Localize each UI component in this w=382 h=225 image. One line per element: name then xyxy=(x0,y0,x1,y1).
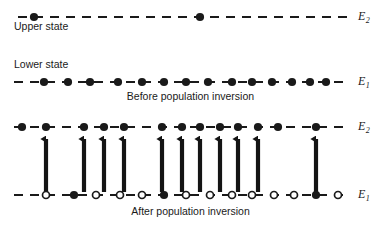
atom-filled-e2-before-2 xyxy=(196,13,204,21)
population-markers-layer xyxy=(18,13,342,199)
atom-open-e1-after-7 xyxy=(183,192,190,199)
atom-filled-e2-after-13 xyxy=(312,123,320,131)
atom-open-e1-after-3 xyxy=(93,192,100,199)
atom-filled-e1-after-2 xyxy=(70,191,78,199)
atom-filled-e1-before-11 xyxy=(268,78,276,86)
atom-filled-e2-after-3 xyxy=(80,123,88,131)
atom-filled-e1-after-13 xyxy=(312,191,320,199)
caption-before-inversion: Before population inversion xyxy=(108,91,273,102)
atom-filled-e1-before-8 xyxy=(204,78,212,86)
atom-filled-e2-after-11 xyxy=(254,123,262,131)
e1-before-subscript: 1 xyxy=(366,81,370,90)
atom-filled-e1-before-9 xyxy=(228,78,236,86)
e1-before-letter: E xyxy=(358,74,365,88)
atom-filled-e1-before-12 xyxy=(288,78,296,86)
e2-before-subscript: 2 xyxy=(366,16,370,25)
atom-filled-e2-after-2 xyxy=(42,123,50,131)
atom-filled-e1-before-10 xyxy=(248,78,256,86)
e2-after-subscript: 2 xyxy=(366,126,370,135)
atom-filled-e2-after-5 xyxy=(120,123,128,131)
atom-filled-e2-after-1 xyxy=(18,123,26,131)
atom-filled-e1-before-5 xyxy=(138,78,146,86)
pump-arrows-layer xyxy=(46,139,316,192)
lower-state-label: Lower state xyxy=(14,59,68,70)
atom-filled-e1-before-3 xyxy=(86,78,94,86)
energy-label-e1-before: E1 xyxy=(358,75,369,87)
atom-open-e1-after-14 xyxy=(335,192,342,199)
e1-after-letter: E xyxy=(358,187,365,201)
caption-after-inversion: After population inversion xyxy=(108,206,273,217)
atom-filled-e1-before-1 xyxy=(40,78,48,86)
atom-open-e1-after-4 xyxy=(117,192,124,199)
atom-filled-e1-before-4 xyxy=(114,78,122,86)
atom-filled-e2-after-7 xyxy=(178,123,186,131)
e2-after-letter: E xyxy=(358,119,365,133)
atom-filled-e2-after-12 xyxy=(274,123,282,131)
atom-filled-e1-before-13 xyxy=(306,78,314,86)
energy-label-e1-after: E1 xyxy=(358,188,369,200)
upper-state-label: Upper state xyxy=(14,21,68,32)
atom-open-e1-after-11 xyxy=(271,192,278,199)
energy-label-e2-before: E2 xyxy=(358,10,369,22)
atom-filled-e2-after-4 xyxy=(100,123,108,131)
atom-filled-e2-after-6 xyxy=(158,123,166,131)
atom-filled-e2-after-10 xyxy=(234,123,242,131)
atom-filled-e2-after-8 xyxy=(196,123,204,131)
atom-filled-e1-after-6 xyxy=(160,191,168,199)
atom-open-e1-after-5 xyxy=(139,192,146,199)
atom-filled-e1-before-14 xyxy=(322,78,330,86)
atom-open-e1-after-1 xyxy=(43,192,50,199)
population-inversion-figure: Upper state Lower state Before populatio… xyxy=(0,0,382,225)
atom-open-e1-after-12 xyxy=(291,192,298,199)
energy-label-e2-after: E2 xyxy=(358,120,369,132)
atom-open-e1-after-10 xyxy=(249,192,256,199)
atom-open-e1-after-8 xyxy=(207,192,214,199)
e2-before-letter: E xyxy=(358,9,365,23)
atom-open-e1-after-9 xyxy=(229,192,236,199)
atom-filled-e1-before-7 xyxy=(182,78,190,86)
e1-after-subscript: 1 xyxy=(366,194,370,203)
atom-filled-e1-before-6 xyxy=(160,78,168,86)
energy-level-diagram xyxy=(0,0,382,225)
atom-filled-e2-after-9 xyxy=(216,123,224,131)
atom-filled-e1-before-2 xyxy=(64,78,72,86)
